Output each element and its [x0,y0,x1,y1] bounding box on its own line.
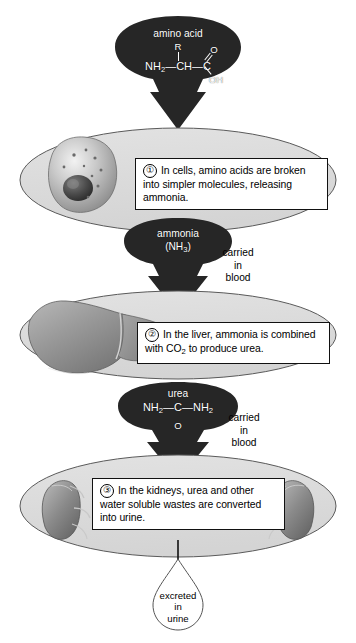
step-3-text: In the kidneys, urea and other water sol… [100,485,261,523]
step-1-number: ① [143,164,157,178]
diagram-canvas: amino acid R NH2—CH—C O OH ①In cells, am… [0,0,356,643]
amino-acid-ch: CH [176,60,192,72]
excreted-in-urine-label: excreted in urine [143,590,213,624]
urea-nh2-left: NH [143,401,159,413]
urea-label: urea [0,388,356,400]
amino-acid-bond-2: — [192,60,203,72]
step-1-text: In cells, amino acids are broken into si… [143,165,306,203]
ammonia-formula: (NH3) [0,241,356,256]
urea-carbon: C [174,401,182,413]
urea-oxygen: O [0,420,356,432]
carried-in-blood-ammonia: carried in blood [207,247,269,285]
carried-in-blood-urea: carried in blood [213,412,275,450]
urea-formula: NH2—C—NH2 [0,401,356,417]
ammonia-formula-close: ) [187,241,190,252]
ammonia-formula-open: (NH [165,241,183,252]
step-3-number: ③ [100,484,114,498]
step-3-callout: ③In the kidneys, urea and other water so… [92,478,285,530]
step-2-callout: ②In the liver, ammonia is combined with … [137,322,330,364]
amino-acid-hydroxyl: OH [204,74,228,86]
amino-acid-backbone: NH2—CH—C [0,60,356,76]
step-2-number: ② [145,328,159,342]
cell-illustration [48,137,116,213]
step-1-callout: ①In cells, amino acids are broken into s… [135,158,328,210]
amino-acid-label: amino acid [0,28,356,40]
urea-bond-right: — [182,401,193,413]
amino-acid-nh2: NH [145,60,161,72]
ammonia-label: ammonia [0,228,356,240]
urea-nh2-right: NH [193,401,209,413]
amino-acid-bond-1: — [165,60,176,72]
urea-bond-left: — [163,401,174,413]
step-2-text-after: to produce urea. [186,343,264,354]
